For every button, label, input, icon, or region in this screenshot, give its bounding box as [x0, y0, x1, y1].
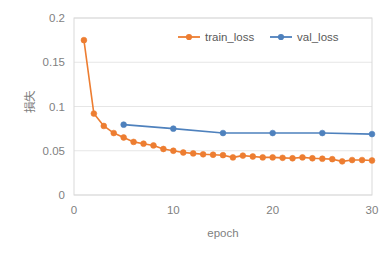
data-point: [180, 150, 186, 156]
data-point: [170, 126, 176, 132]
data-point: [151, 143, 157, 149]
chart-canvas: 00.050.10.150.2 0102030 epoch 損失 train_l…: [0, 0, 392, 253]
y-axis-title: 損失: [23, 90, 36, 113]
data-point: [319, 156, 325, 162]
data-point: [300, 154, 306, 160]
x-axis-title: epoch: [207, 227, 238, 239]
data-point: [111, 130, 117, 136]
data-point: [280, 155, 286, 161]
x-tick-label: 30: [366, 204, 379, 216]
x-tick-label: 20: [266, 204, 279, 216]
data-point: [161, 146, 167, 152]
y-tick-label: 0.05: [43, 145, 65, 157]
data-point: [141, 141, 147, 147]
data-point: [250, 154, 256, 160]
y-tick-label: 0.2: [49, 12, 65, 24]
data-point: [121, 122, 127, 128]
x-tick-label: 10: [167, 204, 180, 216]
data-point: [220, 152, 226, 158]
data-point: [190, 151, 196, 157]
data-point: [339, 158, 345, 164]
data-point: [220, 130, 226, 136]
y-tick-label: 0.15: [43, 56, 65, 68]
data-point: [170, 148, 176, 154]
data-point: [270, 154, 276, 160]
data-point: [260, 154, 266, 160]
y-tick-label: 0.1: [49, 101, 65, 113]
legend-label: val_loss: [297, 31, 339, 43]
loss-curve-chart: 00.050.10.150.2 0102030 epoch 損失 train_l…: [0, 0, 392, 253]
data-point: [349, 157, 355, 163]
data-point: [270, 130, 276, 136]
data-point: [230, 154, 236, 160]
data-point: [101, 123, 107, 129]
data-point: [369, 158, 375, 164]
data-point: [81, 37, 87, 43]
data-point: [310, 155, 316, 161]
data-point: [240, 153, 246, 159]
legend-label: train_loss: [205, 31, 254, 43]
y-tick-label: 0: [59, 189, 65, 201]
data-point: [121, 135, 127, 141]
legend-marker-icon: [186, 34, 192, 40]
data-point: [369, 131, 375, 137]
data-point: [359, 157, 365, 163]
data-point: [91, 111, 97, 117]
data-point: [319, 130, 325, 136]
x-tick-label: 0: [71, 204, 77, 216]
data-point: [329, 156, 335, 162]
legend-marker-icon: [278, 34, 284, 40]
data-point: [131, 139, 137, 145]
data-point: [210, 152, 216, 158]
data-point: [290, 155, 296, 161]
data-point: [200, 151, 206, 157]
